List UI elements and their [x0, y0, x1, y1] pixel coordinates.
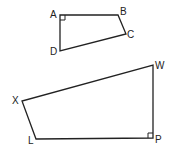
- vertex-label-p: P: [155, 134, 162, 145]
- vertex-label-x: X: [12, 95, 19, 106]
- abcd-outline: [60, 15, 126, 51]
- quadrilateral-wplx: W P L X: [12, 60, 165, 146]
- diagram-canvas: A B C D W P L X: [0, 0, 173, 156]
- vertex-label-c: C: [127, 29, 134, 40]
- vertex-label-d: D: [50, 46, 57, 57]
- vertex-label-b: B: [120, 6, 127, 17]
- right-angle-marker-a: [60, 15, 65, 20]
- vertex-label-a: A: [50, 9, 57, 20]
- wplx-outline: [22, 65, 153, 139]
- quadrilateral-abcd: A B C D: [50, 6, 134, 57]
- vertex-label-l: L: [28, 135, 34, 146]
- vertex-label-w: W: [155, 60, 165, 71]
- right-angle-marker-p: [148, 133, 153, 138]
